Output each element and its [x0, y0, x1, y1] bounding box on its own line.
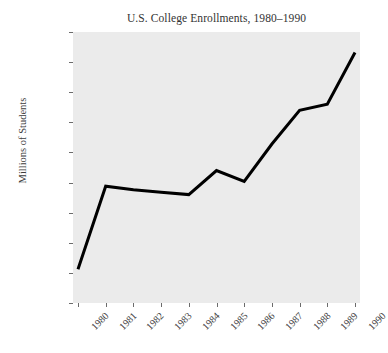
x-tick-mark	[161, 303, 162, 307]
x-tick-mark	[133, 303, 134, 307]
plot-area	[73, 32, 360, 303]
x-tick-mark	[106, 303, 107, 307]
x-tick-mark	[217, 303, 218, 307]
x-tick-mark	[272, 303, 273, 307]
y-axis-label: Millions of Students	[17, 61, 28, 221]
plot-svg	[73, 32, 360, 303]
x-tick-label: 1989	[338, 310, 360, 332]
x-tick-label: 1984	[200, 310, 222, 332]
x-tick-label: 1986	[255, 310, 277, 332]
x-tick-mark	[327, 303, 328, 307]
x-tick-mark	[244, 303, 245, 307]
x-tick-label: 1982	[144, 310, 166, 332]
x-tick-label: 1990	[366, 310, 388, 332]
y-tick-mark	[69, 303, 73, 304]
x-tick-mark	[78, 303, 79, 307]
x-tick-mark	[300, 303, 301, 307]
chart-title: U.S. College Enrollments, 1980–1990	[73, 12, 360, 24]
x-tick-label: 1981	[117, 310, 139, 332]
x-tick-label: 1985	[227, 310, 249, 332]
x-tick-label: 1980	[89, 310, 111, 332]
x-tick-label: 1988	[310, 310, 332, 332]
x-tick-label: 1983	[172, 310, 194, 332]
data-series-line	[78, 52, 355, 269]
x-tick-mark	[355, 303, 356, 307]
x-tick-label: 1987	[283, 310, 305, 332]
x-tick-mark	[189, 303, 190, 307]
